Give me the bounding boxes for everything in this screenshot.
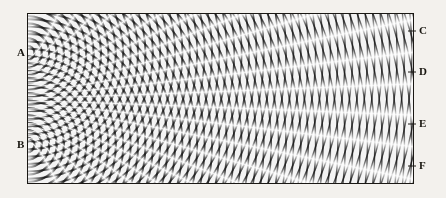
- wave-interference-figure: A B C D E F: [0, 0, 446, 198]
- nodal-label-e: E: [419, 118, 427, 129]
- source-label-a: A: [17, 47, 25, 58]
- nodal-label-c: C: [419, 25, 427, 36]
- interference-pattern-canvas: [0, 0, 446, 198]
- nodal-label-d: D: [419, 66, 427, 77]
- nodal-label-f: F: [419, 160, 426, 171]
- source-label-b: B: [17, 139, 25, 150]
